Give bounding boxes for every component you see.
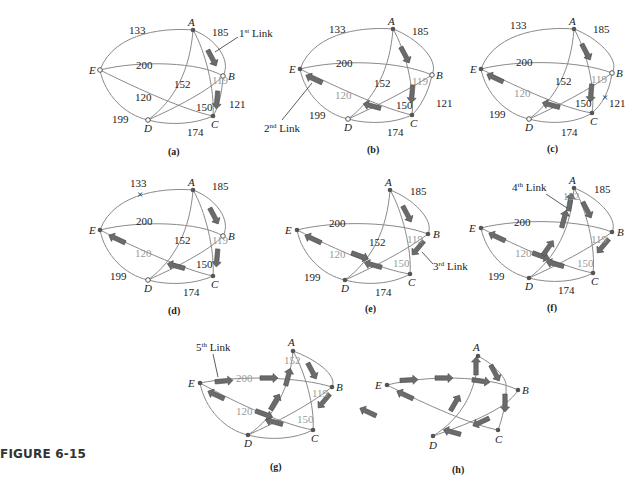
figure-label: FIGURE 6-15: [0, 447, 86, 461]
svg-text:152: 152: [174, 234, 191, 246]
svg-text:D: D: [243, 437, 252, 449]
svg-text:200: 200: [514, 216, 531, 228]
svg-text:(h): (h): [452, 464, 464, 476]
svg-text:119: 119: [412, 75, 429, 87]
svg-text:C: C: [495, 433, 503, 445]
svg-text:A: A: [187, 176, 195, 188]
svg-text:152: 152: [374, 77, 391, 89]
node-b: B: [228, 70, 235, 82]
svg-text:174: 174: [375, 286, 392, 298]
svg-text:(e): (e): [365, 303, 376, 315]
panel-h: A B C D E (h): [358, 341, 529, 476]
svg-text:199: 199: [110, 270, 127, 282]
svg-text:B: B: [522, 384, 529, 396]
svg-text:200: 200: [329, 217, 346, 229]
svg-text:D: D: [428, 439, 437, 451]
panel-a: A B C D E 133 185 200 152 119 120 150 12…: [88, 16, 273, 158]
svg-text:120: 120: [335, 89, 352, 101]
svg-text:174: 174: [183, 286, 200, 298]
svg-text:133: 133: [510, 19, 527, 31]
svg-text:E: E: [88, 224, 96, 236]
svg-text:C: C: [211, 278, 219, 290]
svg-text:B: B: [616, 67, 623, 79]
svg-text:119: 119: [591, 233, 608, 245]
svg-text:(c): (c): [547, 143, 558, 155]
svg-text:120: 120: [329, 248, 346, 260]
svg-text:152: 152: [369, 236, 386, 248]
link-arrow-icon: [204, 48, 220, 68]
svg-text:121: 121: [436, 97, 453, 109]
svg-text:150: 150: [575, 97, 592, 109]
svg-text:200: 200: [236, 372, 253, 384]
svg-text:D: D: [343, 121, 352, 133]
svg-text:120: 120: [236, 405, 253, 417]
weight-bc: 121: [229, 98, 246, 110]
svg-text:C: C: [590, 115, 598, 127]
svg-text:152: 152: [555, 75, 572, 87]
panel-d: × A B C D E 133 185 200 152 119 120 150 …: [88, 176, 235, 317]
weight-ae: 133: [129, 24, 146, 36]
caption-a: (a): [168, 146, 180, 158]
svg-text:200: 200: [136, 215, 153, 227]
weight-db: 150: [196, 101, 213, 113]
svg-text:A: A: [568, 15, 576, 27]
svg-text:B: B: [228, 230, 235, 242]
svg-text:200: 200: [336, 57, 353, 69]
weight-ad: 152: [174, 78, 191, 90]
weight-ab: 185: [212, 26, 229, 38]
svg-text:199: 199: [488, 270, 505, 282]
svg-text:E: E: [468, 222, 476, 234]
node-c: C: [211, 118, 219, 130]
svg-text:185: 185: [410, 185, 427, 197]
node-d: D: [143, 122, 152, 134]
svg-text:E: E: [469, 63, 477, 75]
svg-text:200: 200: [516, 56, 533, 68]
panel-b: A B C D E 133 185 200 152 119 120 150 12…: [264, 15, 453, 156]
svg-text:152: 152: [284, 354, 301, 366]
svg-text:150: 150: [577, 257, 594, 269]
svg-text:199: 199: [309, 109, 326, 121]
svg-text:E: E: [284, 224, 292, 236]
svg-text:D: D: [340, 282, 349, 294]
svg-text:B: B: [436, 69, 443, 81]
svg-text:C: C: [408, 276, 416, 288]
svg-text:×: ×: [137, 188, 143, 200]
panel-g: A B C D E 200 152 119 120 150 5th Link (…: [187, 336, 343, 473]
svg-text:B: B: [336, 381, 343, 393]
svg-text:185: 185: [212, 180, 229, 192]
weight-ac: 119: [212, 74, 229, 86]
svg-text:D: D: [524, 280, 533, 292]
svg-text:150: 150: [196, 258, 213, 270]
svg-text:199: 199: [304, 271, 321, 283]
svg-text:E: E: [288, 63, 296, 75]
svg-text:185: 185: [412, 25, 429, 37]
svg-text:C: C: [311, 432, 319, 444]
weight-eb: 200: [136, 59, 153, 71]
svg-text:199: 199: [489, 108, 506, 120]
svg-text:152: 152: [563, 190, 580, 202]
svg-text:119: 119: [312, 387, 329, 399]
svg-text:D: D: [143, 282, 152, 294]
svg-text:121: 121: [609, 97, 626, 109]
callout-5th-link: 5th Link: [196, 341, 231, 353]
svg-text:174: 174: [561, 126, 578, 138]
svg-text:D: D: [524, 121, 533, 133]
node-a: A: [187, 16, 195, 28]
svg-text:174: 174: [387, 126, 404, 138]
svg-text:(d): (d): [168, 305, 180, 317]
callout-1st-link: 1st Link: [239, 27, 273, 39]
svg-text:174: 174: [558, 284, 575, 296]
svg-text:B: B: [617, 226, 624, 238]
svg-text:119: 119: [212, 234, 229, 246]
svg-text:119: 119: [591, 73, 608, 85]
svg-text:185: 185: [593, 23, 610, 35]
svg-text:E: E: [374, 379, 382, 391]
svg-text:A: A: [387, 15, 395, 27]
svg-text:(b): (b): [367, 144, 379, 156]
svg-text:(f): (f): [547, 302, 557, 314]
panel-c: × A B C D E 133 185 200 152 119 120 150 …: [469, 15, 626, 155]
panel-e: A B C D E 185 200 152 119 120 150 199 17…: [284, 176, 468, 315]
svg-text:150: 150: [297, 413, 314, 425]
figure-canvas: A B C D E 133 185 200 152 119 120 150 12…: [0, 0, 643, 493]
svg-text:150: 150: [393, 257, 410, 269]
